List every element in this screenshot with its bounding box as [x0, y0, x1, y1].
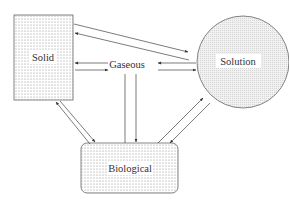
solution-node: Solution	[197, 16, 289, 108]
arrow-biological-to-solution	[158, 98, 203, 143]
diagram-canvas: Solid Solution Biological Gaseous	[0, 0, 289, 203]
arrow-biological-to-solid	[56, 102, 90, 144]
gaseous-label: Gaseous	[109, 59, 145, 70]
biological-label: Biological	[108, 163, 152, 174]
solid-label: Solid	[32, 52, 55, 63]
solution-label: Solution	[220, 56, 256, 67]
arrow-solid-to-biological	[60, 101, 95, 142]
arrows	[56, 24, 210, 144]
biological-node: Biological	[81, 143, 178, 193]
arrow-solid-to-solution	[74, 24, 188, 52]
solid-node: Solid	[14, 15, 73, 100]
arrow-solution-to-biological	[170, 103, 210, 143]
arrow-solution-to-solid	[75, 33, 189, 60]
